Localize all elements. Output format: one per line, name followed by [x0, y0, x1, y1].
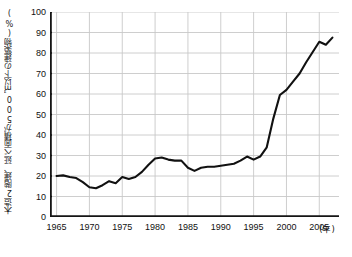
- data-series-line: [57, 38, 333, 189]
- y-axis-tick-label: 20: [18, 171, 46, 181]
- horizontal-gridlines: [51, 12, 339, 197]
- y-axis-tick-label: 60: [18, 89, 46, 99]
- y-axis-tick-label: 100: [18, 7, 46, 17]
- x-axis-tick-label: 1985: [178, 222, 198, 232]
- y-axis-tick-label: 80: [18, 48, 46, 58]
- x-axis-tick-label: 1995: [244, 222, 264, 232]
- x-axis-tick-label: 1970: [79, 222, 99, 232]
- plot-area: [50, 12, 339, 217]
- chart-container: 木造2階建、延べ面積が500㎡以下の建築物(%) 010203040506070…: [0, 0, 352, 257]
- y-axis-tick-label-group: 0102030405060708090100: [18, 0, 46, 257]
- y-axis-title: 木造2階建、延べ面積が500㎡以下の建築物(%): [1, 4, 18, 219]
- y-axis-tick-label: 90: [18, 28, 46, 38]
- x-axis-tick-label: 1965: [47, 222, 67, 232]
- x-axis-tick-label: 2005: [309, 222, 329, 232]
- x-axis-tick-label-group: (年) 196519701975198019851990199520002005: [0, 222, 352, 238]
- y-axis-tick-label: 50: [18, 110, 46, 120]
- vertical-gridlines: [57, 12, 320, 216]
- x-axis-tick-label: 1990: [211, 222, 231, 232]
- y-axis-tick-label: 70: [18, 69, 46, 79]
- x-axis-tick-label: 2000: [276, 222, 296, 232]
- y-axis-tick-label: 40: [18, 130, 46, 140]
- y-axis-tick-label: 0: [18, 212, 46, 222]
- chart-svg: [50, 12, 339, 217]
- y-axis-tick-label: 10: [18, 192, 46, 202]
- x-axis-tick-label: 1975: [112, 222, 132, 232]
- y-axis-tick-label: 30: [18, 151, 46, 161]
- x-axis-tick-label: 1980: [145, 222, 165, 232]
